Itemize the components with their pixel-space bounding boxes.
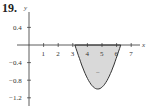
chart: 1234567 0.4−0.4−0.8−1.2 x y − [0,0,148,108]
svg-text:−0.8: −0.8 [9,77,22,85]
region-sign: − [96,69,100,77]
svg-text:7: 7 [129,50,133,58]
svg-text:−1.2: −1.2 [9,94,22,102]
y-axis-label: y [23,4,28,12]
x-axis-label: x [141,41,146,49]
svg-text:0.4: 0.4 [13,24,22,32]
svg-text:−0.4: −0.4 [9,59,22,67]
svg-text:6: 6 [115,50,119,58]
svg-text:2: 2 [56,50,60,58]
svg-text:3: 3 [71,50,75,58]
y-ticks: 0.4−0.4−0.8−1.2 [9,24,31,102]
svg-text:4: 4 [85,50,89,58]
svg-text:5: 5 [100,50,104,58]
svg-text:1: 1 [42,50,46,58]
